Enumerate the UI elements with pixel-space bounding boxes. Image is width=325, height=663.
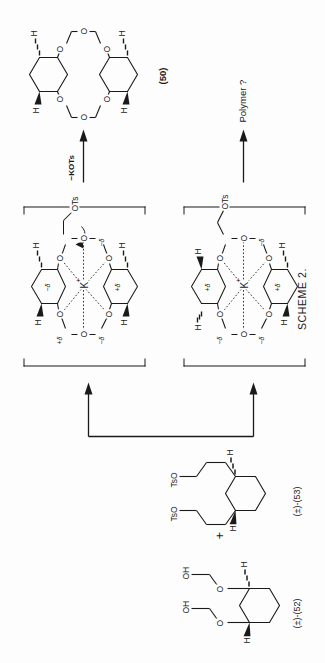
scheme-canvas: O O OH OH H H (±)-(52) + bbox=[13, 19, 313, 644]
structure-50-bonds bbox=[13, 19, 313, 644]
atom-h-50-4: H bbox=[116, 29, 126, 37]
atom-h-50-3: H bbox=[118, 106, 128, 114]
label-product-50: (50) bbox=[156, 67, 167, 84]
atom-o-50-5: O bbox=[101, 94, 111, 103]
atom-o-50-4: O bbox=[78, 26, 88, 35]
rotated-scheme-wrapper: O O OH OH H H (±)-(52) + bbox=[13, 19, 313, 644]
atom-h-50-1: H bbox=[30, 106, 40, 114]
atom-o-50-2: O bbox=[54, 44, 64, 53]
atom-o-50-3: O bbox=[78, 112, 88, 121]
scheme-caption: SCHEME 2. bbox=[296, 268, 308, 330]
atom-o-50-6: O bbox=[101, 44, 111, 53]
atom-h-50-2: H bbox=[28, 29, 38, 37]
scheme-page: O O OH OH H H (±)-(52) + bbox=[0, 0, 325, 663]
atom-o-50-1: O bbox=[54, 94, 64, 103]
